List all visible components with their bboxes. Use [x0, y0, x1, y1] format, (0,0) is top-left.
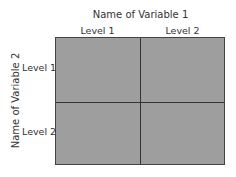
column-label-level-1: Level 1: [55, 25, 140, 36]
column-divider: [140, 38, 141, 164]
row-label-level-1: Level 1: [22, 62, 56, 73]
variable-1-title: Name of Variable 1: [55, 9, 226, 20]
column-label-level-2: Level 2: [140, 25, 225, 36]
factorial-grid: [55, 37, 225, 165]
row-divider: [56, 102, 224, 103]
variable-2-title: Name of Variable 2: [10, 46, 21, 156]
row-label-level-2: Level 2: [22, 126, 56, 137]
